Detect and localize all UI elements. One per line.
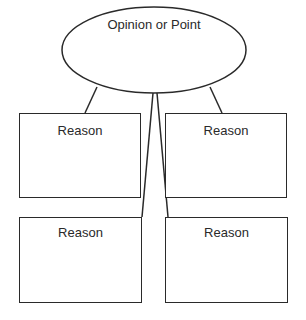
reason-label: Reason (166, 225, 287, 240)
reason-box-bottom-right: Reason (165, 217, 288, 303)
connector-top-left (85, 87, 97, 113)
reason-label: Reason (20, 123, 140, 138)
opinion-label: Opinion or Point (62, 17, 246, 32)
connector-bottom-left (142, 93, 153, 217)
connector-top-right (210, 87, 222, 113)
reason-label: Reason (20, 225, 141, 240)
reason-box-top-left: Reason (19, 113, 141, 198)
reason-label: Reason (166, 123, 286, 138)
reason-box-top-right: Reason (165, 113, 287, 198)
reason-box-bottom-left: Reason (19, 217, 142, 303)
